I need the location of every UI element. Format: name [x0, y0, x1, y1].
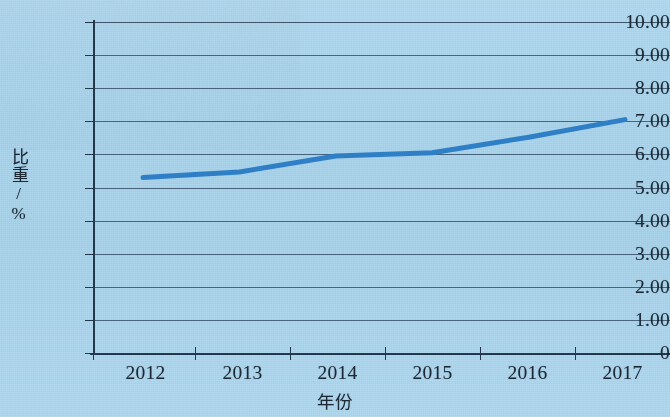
x-tick-label-2016: 2016 — [480, 362, 575, 384]
y-tick-3 — [85, 254, 94, 255]
y-tick-label-1: 1.00 — [592, 309, 670, 331]
x-tick-boundary-1 — [195, 347, 196, 360]
gridline-8 — [93, 88, 670, 89]
y-tick-6 — [85, 154, 94, 155]
x-axis-title: 年份 — [0, 388, 670, 413]
x-tick-boundary-2 — [290, 347, 291, 360]
x-tick-label-2015: 2015 — [385, 362, 480, 384]
x-axis-line — [90, 353, 670, 355]
gridline-5 — [93, 188, 670, 189]
line-chart-figure: 10.00 9.00 8.00 7.00 6.00 5.00 4.00 3.00… — [0, 0, 670, 417]
y-tick-4 — [85, 221, 94, 222]
y-tick-label-0: 0 — [592, 342, 670, 364]
y-tick-5 — [85, 188, 94, 189]
y-tick-7 — [85, 121, 94, 122]
plot-area — [93, 22, 670, 353]
y-tick-10 — [85, 22, 94, 23]
gridline-2 — [93, 287, 670, 288]
y-tick-label-8: 8.00 — [592, 77, 670, 99]
y-tick-label-6: 6.00 — [592, 143, 670, 165]
gridline-6 — [93, 154, 670, 155]
y-tick-9 — [85, 55, 94, 56]
gridline-10 — [93, 22, 670, 23]
x-tick-boundary-4 — [480, 347, 481, 360]
y-tick-label-5: 5.00 — [592, 177, 670, 199]
x-tick-boundary-5 — [575, 347, 576, 360]
y-tick-label-9: 9.00 — [592, 44, 670, 66]
x-tick-label-2013: 2013 — [195, 362, 290, 384]
gridline-3 — [93, 254, 670, 255]
x-axis-title-text: 年份 — [317, 392, 354, 412]
x-tick-label-2017: 2017 — [575, 362, 670, 384]
y-tick-label-4: 4.00 — [592, 210, 670, 232]
x-tick-label-2012: 2012 — [98, 362, 193, 384]
y-tick-label-2: 2.00 — [592, 276, 670, 298]
y-tick-1 — [85, 320, 94, 321]
gridline-1 — [93, 320, 670, 321]
y-axis-title-text: 比重/% — [9, 148, 28, 224]
y-tick-label-3: 3.00 — [592, 243, 670, 265]
gridline-7 — [93, 121, 670, 122]
gridline-9 — [93, 55, 670, 56]
y-tick-label-10: 10.00 — [592, 11, 670, 33]
y-axis-title: 比重/% — [6, 148, 31, 224]
y-tick-label-7: 7.00 — [592, 110, 670, 132]
gridline-4 — [93, 221, 670, 222]
x-tick-boundary-0 — [93, 347, 94, 360]
y-tick-2 — [85, 287, 94, 288]
y-tick-8 — [85, 88, 94, 89]
x-tick-label-2014: 2014 — [290, 362, 385, 384]
x-tick-boundary-3 — [385, 347, 386, 360]
